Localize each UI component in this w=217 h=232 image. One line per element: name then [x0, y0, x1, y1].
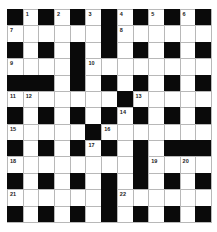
- crossword-cell[interactable]: 11: [7, 91, 23, 107]
- crossword-cell[interactable]: [70, 189, 86, 205]
- crossword-cell[interactable]: [85, 189, 101, 205]
- crossword-cell[interactable]: [133, 25, 149, 41]
- crossword-cell[interactable]: [85, 173, 101, 189]
- crossword-cell[interactable]: [54, 206, 70, 222]
- crossword-cell[interactable]: [180, 107, 196, 123]
- crossword-cell[interactable]: [148, 42, 164, 58]
- crossword-cell[interactable]: [54, 124, 70, 140]
- crossword-cell[interactable]: [148, 140, 164, 156]
- crossword-cell[interactable]: 20: [180, 156, 196, 172]
- crossword-cell[interactable]: 18: [7, 156, 23, 172]
- crossword-cell[interactable]: [85, 91, 101, 107]
- crossword-cell[interactable]: 8: [117, 25, 133, 41]
- crossword-cell[interactable]: [148, 189, 164, 205]
- crossword-cell[interactable]: [38, 124, 54, 140]
- crossword-cell[interactable]: [70, 91, 86, 107]
- crossword-cell[interactable]: [38, 58, 54, 74]
- crossword-cell[interactable]: [85, 107, 101, 123]
- crossword-cell[interactable]: [180, 75, 196, 91]
- crossword-cell[interactable]: [54, 58, 70, 74]
- crossword-cell[interactable]: 6: [180, 9, 196, 25]
- crossword-cell[interactable]: [148, 173, 164, 189]
- crossword-cell[interactable]: 4: [117, 9, 133, 25]
- crossword-cell[interactable]: 3: [85, 9, 101, 25]
- crossword-cell[interactable]: 12: [23, 91, 39, 107]
- crossword-cell[interactable]: [180, 58, 196, 74]
- crossword-cell[interactable]: 9: [7, 58, 23, 74]
- crossword-cell[interactable]: [180, 25, 196, 41]
- crossword-cell[interactable]: [54, 173, 70, 189]
- crossword-cell[interactable]: [54, 42, 70, 58]
- crossword-cell[interactable]: [70, 25, 86, 41]
- crossword-cell[interactable]: [180, 173, 196, 189]
- crossword-cell[interactable]: [38, 156, 54, 172]
- crossword-cell[interactable]: [195, 189, 211, 205]
- crossword-cell[interactable]: [101, 91, 117, 107]
- crossword-cell[interactable]: [195, 124, 211, 140]
- crossword-cell[interactable]: [164, 124, 180, 140]
- crossword-cell[interactable]: 10: [85, 58, 101, 74]
- crossword-cell[interactable]: 16: [101, 124, 117, 140]
- crossword-cell[interactable]: 1: [23, 9, 39, 25]
- crossword-cell[interactable]: [164, 25, 180, 41]
- crossword-cell[interactable]: [23, 189, 39, 205]
- crossword-cell[interactable]: [23, 25, 39, 41]
- crossword-cell[interactable]: [164, 91, 180, 107]
- crossword-cell[interactable]: 14: [117, 107, 133, 123]
- crossword-cell[interactable]: [180, 206, 196, 222]
- crossword-cell[interactable]: [148, 91, 164, 107]
- crossword-cell[interactable]: 21: [7, 189, 23, 205]
- crossword-cell[interactable]: [117, 156, 133, 172]
- crossword-cell[interactable]: [164, 156, 180, 172]
- crossword-cell[interactable]: [148, 75, 164, 91]
- crossword-cell[interactable]: [117, 75, 133, 91]
- crossword-cell[interactable]: [164, 58, 180, 74]
- crossword-cell[interactable]: [133, 58, 149, 74]
- crossword-cell[interactable]: 7: [7, 25, 23, 41]
- crossword-cell[interactable]: [148, 25, 164, 41]
- crossword-cell[interactable]: [54, 140, 70, 156]
- crossword-cell[interactable]: [23, 107, 39, 123]
- crossword-cell[interactable]: [195, 58, 211, 74]
- crossword-cell[interactable]: [195, 156, 211, 172]
- crossword-cell[interactable]: [54, 156, 70, 172]
- crossword-cell[interactable]: [148, 107, 164, 123]
- crossword-cell[interactable]: [23, 58, 39, 74]
- crossword-cell[interactable]: [180, 91, 196, 107]
- crossword-cell[interactable]: 5: [148, 9, 164, 25]
- crossword-cell[interactable]: [133, 189, 149, 205]
- crossword-cell[interactable]: [85, 25, 101, 41]
- crossword-cell[interactable]: [195, 91, 211, 107]
- crossword-cell[interactable]: [70, 156, 86, 172]
- crossword-cell[interactable]: [23, 173, 39, 189]
- crossword-cell[interactable]: [54, 189, 70, 205]
- crossword-cell[interactable]: [101, 156, 117, 172]
- crossword-cell[interactable]: [38, 189, 54, 205]
- crossword-cell[interactable]: [148, 58, 164, 74]
- crossword-cell[interactable]: [117, 206, 133, 222]
- crossword-cell[interactable]: [101, 58, 117, 74]
- crossword-cell[interactable]: [180, 124, 196, 140]
- crossword-cell[interactable]: [54, 107, 70, 123]
- crossword-cell[interactable]: 22: [117, 189, 133, 205]
- crossword-cell[interactable]: [85, 75, 101, 91]
- crossword-cell[interactable]: [117, 58, 133, 74]
- crossword-cell[interactable]: [23, 124, 39, 140]
- crossword-cell[interactable]: 17: [85, 140, 101, 156]
- crossword-cell[interactable]: [195, 25, 211, 41]
- crossword-cell[interactable]: [23, 206, 39, 222]
- crossword-cell[interactable]: [148, 206, 164, 222]
- crossword-cell[interactable]: [164, 189, 180, 205]
- crossword-cell[interactable]: [180, 42, 196, 58]
- crossword-cell[interactable]: [85, 42, 101, 58]
- crossword-cell[interactable]: [85, 156, 101, 172]
- crossword-cell[interactable]: [54, 25, 70, 41]
- crossword-cell[interactable]: [117, 124, 133, 140]
- crossword-cell[interactable]: [148, 124, 164, 140]
- crossword-cell[interactable]: 19: [148, 156, 164, 172]
- crossword-cell[interactable]: [117, 140, 133, 156]
- crossword-cell[interactable]: [133, 124, 149, 140]
- crossword-cell[interactable]: [54, 91, 70, 107]
- crossword-cell[interactable]: [38, 25, 54, 41]
- crossword-cell[interactable]: [23, 42, 39, 58]
